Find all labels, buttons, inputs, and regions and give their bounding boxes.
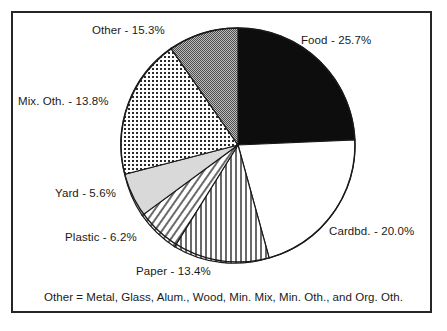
pie-chart-figure: Food - 25.7% Cardbd. - 20.0% Paper - 13.… (0, 0, 447, 331)
pie-label-mix-oth: Mix. Oth. - 13.8% (18, 95, 109, 107)
pie-label-cardbd: Cardbd. - 20.0% (329, 225, 414, 237)
pie-label-yard: Yard - 5.6% (55, 187, 116, 199)
pie-chart-canvas (0, 0, 447, 331)
pie-label-other: Other - 15.3% (92, 24, 165, 36)
chart-footnote: Other = Metal, Glass, Alum., Wood, Min. … (0, 291, 447, 303)
pie-label-food: Food - 25.7% (301, 34, 371, 46)
pie-label-paper: Paper - 13.4% (136, 265, 211, 277)
pie-label-plastic: Plastic - 6.2% (65, 231, 137, 243)
